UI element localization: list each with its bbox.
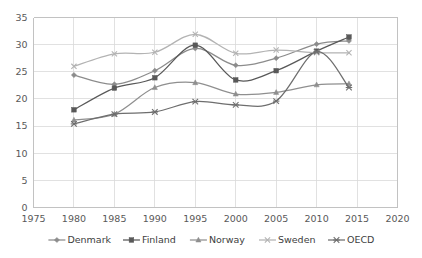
legend-item-oecd[interactable]: OECD bbox=[328, 234, 374, 245]
data-point-marker-diamond bbox=[152, 68, 157, 73]
series-layer bbox=[71, 32, 352, 127]
y-axis-tick-label: 5 bbox=[21, 175, 27, 186]
x-axis-tick-label: 2010 bbox=[305, 213, 329, 224]
x-axis-tick-label: 1975 bbox=[21, 213, 45, 224]
y-axis-tick-label: 10 bbox=[15, 148, 27, 159]
axis-layer bbox=[34, 18, 398, 208]
x-axis-tick-label: 2015 bbox=[345, 213, 369, 224]
legend-label: Denmark bbox=[67, 234, 111, 245]
legend-item-norway[interactable]: Norway bbox=[190, 234, 245, 245]
y-axis-tick-label: 30 bbox=[15, 39, 27, 50]
x-axis-tick-labels: 1975198019851990199520002005201020152020 bbox=[21, 213, 409, 224]
legend-label: Sweden bbox=[278, 234, 316, 245]
x-axis-tick-label: 2020 bbox=[385, 213, 409, 224]
legend-item-denmark[interactable]: Denmark bbox=[48, 234, 111, 245]
data-point-marker-square bbox=[274, 68, 279, 73]
legend-item-finland[interactable]: Finland bbox=[123, 234, 176, 245]
data-point-marker-square bbox=[153, 75, 158, 80]
y-axis-tick-label: 20 bbox=[15, 93, 27, 104]
data-point-marker-square bbox=[233, 78, 238, 83]
series-denmark bbox=[71, 38, 351, 87]
legend-label: Norway bbox=[209, 234, 245, 245]
data-point-marker-diamond bbox=[54, 237, 59, 242]
data-point-marker-diamond bbox=[71, 72, 76, 77]
series-line-denmark bbox=[74, 41, 349, 84]
chart-legend: DenmarkFinlandNorwaySwedenOECD bbox=[48, 234, 374, 245]
y-axis-tick-labels: 05101520253035 bbox=[15, 12, 27, 213]
line-chart: 05101520253035 1975198019851990199520002… bbox=[0, 0, 422, 258]
data-point-marker-square bbox=[347, 35, 352, 40]
x-axis-tick-label: 1980 bbox=[62, 213, 86, 224]
legend-item-sweden[interactable]: Sweden bbox=[259, 234, 316, 245]
y-axis-tick-label: 0 bbox=[21, 202, 27, 213]
x-axis-tick-label: 2000 bbox=[224, 213, 248, 224]
data-point-marker-asterisk bbox=[333, 237, 339, 243]
x-axis-tick-label: 1995 bbox=[183, 213, 207, 224]
data-point-marker-diamond bbox=[233, 63, 238, 68]
data-point-marker-square bbox=[193, 43, 198, 48]
data-point-marker-square bbox=[129, 238, 134, 243]
y-axis-tick-label: 25 bbox=[15, 66, 27, 77]
grid-layer bbox=[34, 18, 398, 208]
chart-canvas: 05101520253035 1975198019851990199520002… bbox=[0, 0, 422, 258]
legend-label: Finland bbox=[142, 234, 176, 245]
series-sweden bbox=[71, 32, 351, 69]
x-axis-tick-label: 1985 bbox=[102, 213, 126, 224]
data-point-marker-square bbox=[72, 107, 77, 112]
series-line-sweden bbox=[74, 34, 349, 66]
x-axis-tick-label: 1990 bbox=[143, 213, 167, 224]
data-point-marker-square bbox=[112, 86, 117, 91]
legend-label: OECD bbox=[347, 234, 374, 245]
y-axis-tick-label: 15 bbox=[15, 120, 27, 131]
x-axis-tick-label: 2005 bbox=[264, 213, 288, 224]
y-axis-tick-label: 35 bbox=[15, 12, 27, 23]
data-point-marker-diamond bbox=[314, 42, 319, 47]
data-point-marker-diamond bbox=[274, 56, 279, 61]
